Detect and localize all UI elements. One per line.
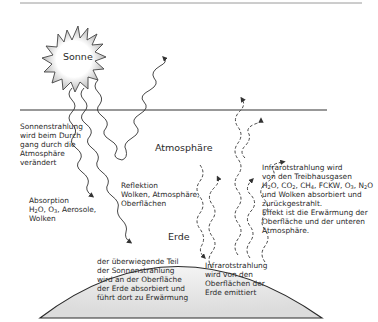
reflection-line-2: Wolken, Atmosphäre, (121, 190, 199, 199)
greenhouse-line-6: Effekt ist die Erwärmung der (262, 208, 368, 217)
greenhouse-line-8: Atmosphäre. (262, 226, 309, 235)
earth-label: Erde (168, 232, 190, 241)
absorption-clouds: Wolken (29, 214, 56, 223)
surface-absorption-line-1: der überwiegende Teil (97, 257, 179, 266)
absorption-gases: H2O, O3, Aerosole, (29, 205, 96, 214)
surface-absorption-line-3: wird an der Oberfläche (97, 275, 182, 284)
infrared-emitted-line-3: Oberflächen der (205, 279, 265, 288)
greenhouse-line-7: Oberfläche und der unteren (262, 217, 365, 226)
greenhouse-line-4: und Wolken absorbiert und (262, 190, 362, 199)
sun-radiation-line-3: gang durch die (20, 140, 76, 149)
greenhouse-line-1: Infrarotstrahlung wird (262, 163, 343, 172)
surface-absorption-line-4: der Erde absorbiert und (97, 284, 185, 293)
solar-ray-to-earth (81, 88, 130, 242)
greenhouse-gases-line: H2O, CO2, CH4, FCKW, O3, N2O (262, 181, 373, 190)
ir-ray-back-radiated (209, 178, 219, 268)
greenhouse-line-2: von den Treibhausgasen (262, 172, 352, 181)
greenhouse-line-5: zurückgestrahlt. (262, 199, 322, 208)
ir-ray-right-3 (242, 120, 261, 158)
reflection-line-1: Reflektion (121, 181, 158, 190)
infrared-emitted-line-4: Erde emittiert (205, 288, 256, 297)
sun-label: Sonne (63, 52, 93, 61)
surface-absorption-line-2: der Sonnenstrahlung (97, 266, 175, 275)
ir-ray-right-1 (247, 180, 255, 258)
infrared-emitted-line-1: Infrarotstrahlung (205, 261, 267, 270)
ir-ray-escaping (235, 99, 244, 255)
surface-absorption-line-5: führt dort zu Erwärmung (97, 293, 188, 302)
ir-ray-down-to-earth (197, 165, 204, 257)
sun-radiation-line-1: Sonnenstrahlung (20, 122, 83, 131)
atmosphere-label: Atmosphäre (155, 143, 213, 152)
sun-radiation-line-5: verändert (20, 158, 56, 167)
reflection-line-3: Oberflächen (121, 199, 166, 208)
greenhouse-diagram (0, 0, 378, 322)
absorption-title: Absorption (29, 196, 69, 205)
sun-radiation-line-2: wird beim Durch (20, 131, 81, 140)
sun-radiation-line-4: Atmosphäre (20, 149, 65, 158)
infrared-emitted-line-2: wird von den (205, 270, 253, 279)
